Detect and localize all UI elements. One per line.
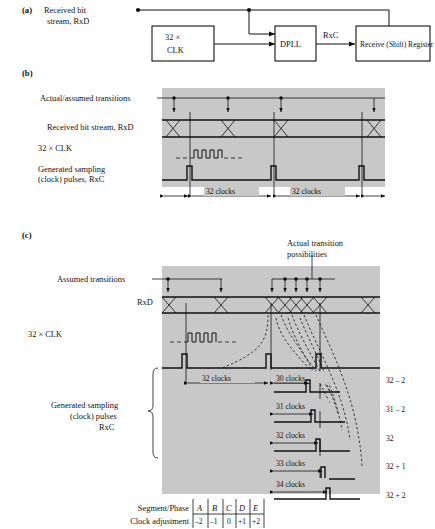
table-segment-2: C: [226, 504, 232, 513]
panel-c-gray-background: [162, 266, 380, 494]
panel-c-right-label-3: 32 + 1: [386, 462, 406, 471]
segment-phase-table: Segment/Phase Clock adjustment A B C D E…: [130, 499, 264, 528]
table-segment-1: B: [212, 504, 217, 513]
panel-b-row-label-rxc-line2: (clock) pulses, RxC: [38, 175, 105, 184]
panel-b-row-label-rxc-line1: Generated sampling: [38, 165, 106, 174]
panel-b-row-label-clk: 32 × CLK: [38, 144, 72, 153]
table-adjustment-3: +1: [238, 517, 246, 526]
clock-divider-line1: 32 ×: [165, 33, 180, 42]
table-adjustment-1: –1: [209, 517, 218, 526]
panel-c-row-label-rxc-line1: Generated sampling: [51, 401, 119, 410]
panel-c-interval-label-34: 34 clocks: [276, 480, 305, 489]
figure-dpll-timing: (a) Received bit stream, RxD 32 × CLK DP…: [0, 0, 435, 529]
panel-c-row-label-assumed: Assumed transitions: [57, 275, 125, 284]
panel-c-right-label-0: 32 – 2: [386, 376, 405, 385]
panel-c-right-label-1: 31 – 2: [386, 405, 405, 414]
panel-c-callout-line2: possibilities: [287, 250, 327, 259]
panel-c-sampling-brace: [148, 368, 158, 458]
rxc-wire-label: RxC: [323, 31, 339, 40]
clock-divider-block: [152, 26, 214, 61]
panel-c-interval-label-32a: 32 clocks: [202, 374, 231, 383]
table-adjustment-0: –2: [194, 517, 203, 526]
table-row-header-segment: Segment/Phase: [138, 504, 189, 513]
panel-c-row-label-rxc-line2: (clock) pulses: [70, 412, 117, 421]
table-segment-0: A: [196, 504, 203, 513]
panel-c-interval-label-30: 30 clocks: [276, 374, 305, 383]
receive-shift-register-label: Receive (Shift) Register: [360, 40, 434, 49]
panel-c-callout-line1: Actual transition: [287, 239, 344, 248]
panel-a-signal-label-line1: Received bit: [44, 6, 87, 15]
panel-c-right-label-4: 32 + 2: [386, 491, 406, 500]
panel-c-row-label-rxd: RxD: [137, 298, 153, 307]
panel-c-interval-label-31: 31 clocks: [276, 402, 305, 411]
panel-c-row-label-clk: 32 × CLK: [28, 330, 62, 339]
dpll-label: DPLL: [280, 40, 301, 49]
panel-b-interval-label-1: 32 clocks: [206, 187, 235, 196]
panel-a-label: (a): [22, 5, 32, 15]
table-segment-4: E: [252, 504, 258, 513]
panel-c-interval-label-32b: 32 clocks: [276, 431, 305, 440]
panel-c-label: (c): [22, 230, 32, 240]
table-segment-3: D: [238, 504, 245, 513]
panel-c-row-label-rxc-line3: RxC: [99, 423, 115, 432]
panel-b-label: (b): [22, 68, 33, 78]
panel-c-right-label-2: 32: [386, 434, 394, 443]
panel-b-row-label-rxd: Received bit stream, RxD: [47, 123, 134, 132]
panel-c-interval-label-33: 33 clocks: [276, 459, 305, 468]
panel-a-signal-label-line2: stream, RxD: [47, 17, 89, 26]
table-adjustment-2: 0: [227, 517, 231, 526]
table-adjustment-4: +2: [252, 517, 260, 526]
panel-b-row-label-transitions: Actual/assumed transitions: [40, 94, 130, 103]
clock-divider-line2: CLK: [167, 46, 184, 55]
table-row-header-adjustment: Clock adjustment: [130, 517, 190, 526]
panel-b-interval-label-2: 32 clocks: [292, 187, 321, 196]
